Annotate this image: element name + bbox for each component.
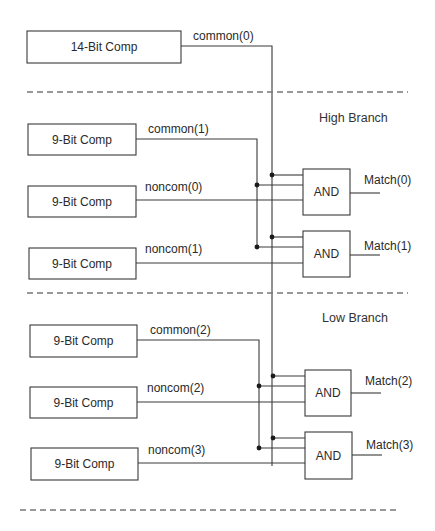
signal-label-common0: common(0) xyxy=(193,29,254,43)
signal-label-noncom0: noncom(0) xyxy=(145,180,202,194)
and-gate-label: AND xyxy=(315,386,341,400)
junction-dot xyxy=(270,173,275,178)
signal-label-noncom3: noncom(3) xyxy=(148,443,205,457)
comparator-label: 9-Bit Comp xyxy=(52,133,112,147)
output-label-match1: Match(1) xyxy=(364,239,411,253)
junction-dot xyxy=(257,446,262,451)
signal-label-common1: common(1) xyxy=(148,122,209,136)
junction-dot xyxy=(255,183,260,188)
and-gate-label: AND xyxy=(316,449,342,463)
comparator-label: 9-Bit Comp xyxy=(52,257,112,271)
comparator-label: 14-Bit Comp xyxy=(71,40,138,54)
wire-common0-bus xyxy=(181,46,272,466)
signal-label-noncom1: noncom(1) xyxy=(145,242,202,256)
junction-dot xyxy=(271,374,276,379)
output-label-match0: Match(0) xyxy=(364,173,411,187)
section-title-low-branch: Low Branch xyxy=(322,311,388,325)
section-title-high-branch: High Branch xyxy=(319,111,388,125)
junction-dot xyxy=(255,245,260,250)
comparator-label: 9-Bit Comp xyxy=(52,195,112,209)
junction-dot xyxy=(270,235,275,240)
output-label-match3: Match(3) xyxy=(366,438,413,452)
junction-dot xyxy=(271,436,276,441)
comparator-label: 9-Bit Comp xyxy=(53,334,113,348)
section-high-branch: High Branch 9-Bit Comp common(1) 9-Bit C… xyxy=(28,111,411,279)
comparator-match-diagram: 14-Bit Comp common(0) High Branch 9-Bit … xyxy=(0,0,435,531)
output-label-match2: Match(2) xyxy=(365,374,412,388)
signal-label-common2: common(2) xyxy=(150,323,211,337)
comparator-label: 9-Bit Comp xyxy=(54,457,114,471)
section-low-branch: Low Branch 9-Bit Comp common(2) 9-Bit Co… xyxy=(30,311,413,480)
junction-dot xyxy=(257,384,262,389)
signal-label-noncom2: noncom(2) xyxy=(147,381,204,395)
and-gate-label: AND xyxy=(314,185,340,199)
and-gate-label: AND xyxy=(314,247,340,261)
comparator-label: 9-Bit Comp xyxy=(53,396,113,410)
